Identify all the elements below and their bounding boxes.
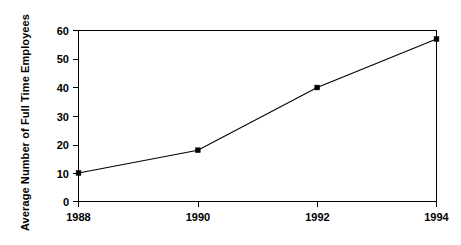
line-chart: 60 50 40 30 20 10 0 1988 1990 1992 1994 — [0, 0, 461, 245]
series-markers — [76, 37, 439, 176]
x-tick-label-1992: 1992 — [305, 211, 329, 223]
y-tick-label-10: 10 — [57, 168, 69, 180]
data-point-1990 — [195, 148, 200, 153]
x-axis-tick-labels: 1988 1990 1992 1994 — [66, 211, 449, 223]
y-axis-tick-labels: 60 50 40 30 20 10 0 — [57, 25, 69, 208]
y-tick-label-0: 0 — [63, 196, 69, 208]
series-group — [76, 37, 439, 176]
data-point-1988 — [76, 171, 81, 176]
y-tick-label-30: 30 — [57, 111, 69, 123]
y-tick-label-40: 40 — [57, 82, 69, 94]
y-tick-label-20: 20 — [57, 139, 69, 151]
x-tick-label-1990: 1990 — [186, 211, 210, 223]
y-tick-label-60: 60 — [57, 25, 69, 37]
x-axis-ticks — [79, 202, 437, 208]
chart-page: Average Number of Full Time Employees 60… — [0, 0, 461, 245]
x-tick-label-1988: 1988 — [66, 211, 90, 223]
data-point-1992 — [315, 85, 320, 90]
plot-frame — [79, 31, 437, 202]
y-tick-label-50: 50 — [57, 53, 69, 65]
data-point-1994 — [434, 37, 439, 42]
x-tick-label-1994: 1994 — [424, 211, 449, 223]
y-axis-ticks — [73, 31, 79, 202]
series-line — [79, 39, 437, 173]
